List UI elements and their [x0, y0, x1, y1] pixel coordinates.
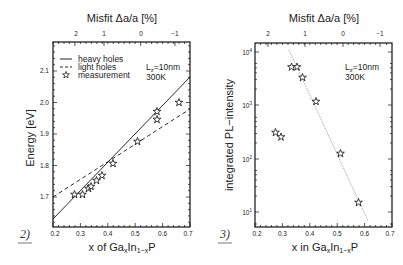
x-tick-label: 0.6 [158, 230, 167, 237]
x-tick-label: 0.3 [76, 230, 85, 237]
measurement-points [272, 63, 363, 206]
star-icon [272, 128, 280, 135]
pl-intensity-chart: Misfit Δa/a [%] 2 1 0 −1 104 103 102 101… [218, 12, 395, 254]
star-icon [312, 97, 320, 104]
top-tick: 2 [74, 30, 78, 37]
figure: Misfit Δa/a [%] 2 1 0 −1 1.7 1.8 1.9 2.0… [0, 0, 403, 265]
heavy-holes-line [53, 77, 190, 219]
star-icon [355, 198, 363, 205]
y-tick-label: 1.7 [40, 193, 49, 200]
y-tick-label: 1.8 [40, 162, 49, 169]
x-tick-label: 0.5 [333, 230, 342, 237]
annotation-temperature: 300K [146, 72, 166, 82]
panel-label: 2) [20, 227, 30, 241]
x-tick-label: 0.4 [305, 230, 314, 237]
light-holes-line [53, 109, 190, 197]
top-tick: −1 [171, 30, 179, 37]
top-tick: −1 [376, 30, 384, 37]
y-tick-label: 2.0 [40, 99, 49, 106]
y-tick-label: 103 [242, 101, 252, 109]
star-icon [134, 137, 142, 144]
star-icon [293, 63, 301, 70]
x-axis-title: x in GaxIn1−xP [292, 241, 358, 254]
top-tick: 2 [266, 30, 270, 37]
star-icon [98, 171, 106, 178]
top-tick: 1 [303, 30, 307, 37]
star-icon [109, 159, 117, 166]
top-axis-title: Misfit Δa/a [%] [289, 12, 359, 24]
top-tick: 0 [139, 30, 143, 37]
y-tick-label: 102 [242, 155, 252, 163]
x-axis-title: x of GaxIn1−xP [89, 241, 156, 254]
star-icon [63, 71, 70, 78]
top-axis-title: Misfit Δa/a [%] [87, 12, 157, 24]
x-tick-label: 0.2 [50, 230, 59, 237]
x-tick-label: 0.4 [103, 230, 112, 237]
top-tick: 1 [102, 30, 106, 37]
y-tick-label: 104 [242, 48, 252, 56]
x-tick-label: 0.2 [252, 230, 261, 237]
annotation-temperature: 300K [345, 72, 365, 82]
top-tick: 0 [341, 30, 345, 37]
star-icon [277, 133, 285, 140]
y-axis-title: Energy [eV] [24, 109, 36, 166]
star-icon [93, 176, 101, 183]
star-icon [153, 115, 161, 122]
x-tick-label: 0.7 [385, 230, 394, 237]
x-tick-label: 0.3 [278, 230, 287, 237]
star-icon [175, 98, 183, 105]
panel-label: 3) [219, 227, 230, 241]
legend: heavy holes light holes measurement [60, 54, 131, 80]
y-axis-title: integrated PL−intensity [223, 78, 235, 191]
y-tick-label: 1.9 [40, 130, 49, 137]
y-ticks [255, 52, 392, 224]
legend-label: measurement [78, 70, 131, 80]
x-tick-label: 0.6 [360, 230, 369, 237]
y-tick-label: 101 [242, 208, 252, 216]
x-tick-label: 0.7 [183, 230, 192, 237]
y-tick-label: 2.1 [40, 67, 49, 74]
energy-chart: Misfit Δa/a [%] 2 1 0 −1 1.7 1.8 1.9 2.0… [18, 12, 193, 254]
x-tick-label: 0.5 [131, 230, 140, 237]
